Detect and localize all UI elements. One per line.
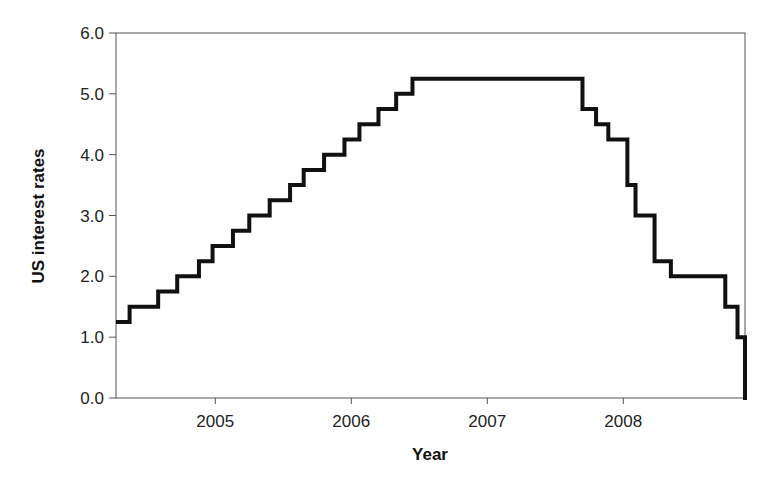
x-tick-label: 2007: [468, 412, 506, 431]
y-tick-label: 0.0: [80, 389, 104, 408]
y-tick-label: 3.0: [80, 207, 104, 226]
interest-rate-step-line: [116, 79, 745, 398]
y-axis: 0.01.02.03.04.05.06.0: [80, 24, 116, 408]
y-tick-label: 5.0: [80, 85, 104, 104]
x-axis: 2005200620072008: [196, 398, 642, 431]
y-axis-title: US interest rates: [29, 148, 48, 283]
x-tick-label: 2008: [604, 412, 642, 431]
x-tick-label: 2006: [332, 412, 370, 431]
y-tick-label: 2.0: [80, 267, 104, 286]
y-tick-label: 1.0: [80, 328, 104, 347]
step-chart: 0.01.02.03.04.05.06.0 2005200620072008 Y…: [0, 0, 773, 483]
x-axis-title: Year: [412, 445, 448, 464]
y-tick-label: 6.0: [80, 24, 104, 43]
x-tick-label: 2005: [196, 412, 234, 431]
y-tick-label: 4.0: [80, 146, 104, 165]
